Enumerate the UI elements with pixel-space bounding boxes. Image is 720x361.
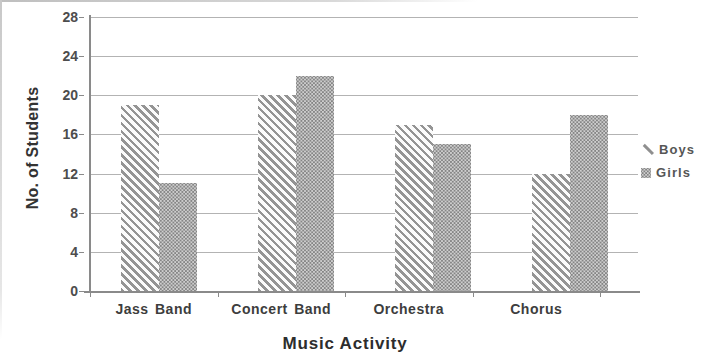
bar-boys-orchestra xyxy=(395,125,433,291)
y-tick-label-12: 12 xyxy=(38,166,78,182)
bar-girls-concert-band xyxy=(296,76,334,291)
bar-chart: No. of Students 0481216202428 Jass BandC… xyxy=(0,0,720,361)
legend: Boys Girls xyxy=(641,142,695,180)
bar-girls-orchestra xyxy=(433,144,471,291)
category-label-concert-band: Concert Band xyxy=(218,301,346,317)
bar-boys-chorus xyxy=(532,174,570,291)
bar-group-orchestra xyxy=(364,17,501,291)
y-axis-ticks: 0481216202428 xyxy=(38,0,84,300)
bar-girls-jass-band xyxy=(159,183,197,291)
x-tick-mark-0 xyxy=(90,292,91,297)
y-tick-label-20: 20 xyxy=(38,87,78,103)
bar-boys-jass-band xyxy=(121,105,159,291)
y-tick-mark-16 xyxy=(79,134,84,135)
bar-girls-chorus xyxy=(570,115,608,291)
x-category-labels: Jass BandConcert BandOrchestraChorus xyxy=(90,301,600,317)
y-tick-label-16: 16 xyxy=(38,126,78,142)
bar-pair-jass-band xyxy=(121,105,197,291)
scan-edge-left xyxy=(0,0,2,340)
bar-pair-concert-band xyxy=(258,76,334,291)
x-tick-mark-1 xyxy=(218,292,219,297)
x-tick-mark-3 xyxy=(473,292,474,297)
x-tick-mark-2 xyxy=(345,292,346,297)
bar-boys-concert-band xyxy=(258,95,296,291)
girls-dot-swatch-icon xyxy=(641,168,651,178)
y-tick-label-4: 4 xyxy=(38,244,78,260)
y-tick-mark-12 xyxy=(79,174,84,175)
y-tick-label-28: 28 xyxy=(38,9,78,25)
x-axis-tick-marks xyxy=(90,292,600,298)
bar-pair-chorus xyxy=(532,115,608,291)
y-tick-mark-24 xyxy=(79,56,84,57)
y-tick-label-24: 24 xyxy=(38,48,78,64)
y-tick-mark-28 xyxy=(79,17,84,18)
boys-stripe-swatch-icon xyxy=(641,143,654,156)
legend-item-girls: Girls xyxy=(641,165,695,180)
legend-boys-label: Boys xyxy=(659,142,695,157)
x-axis-title: Music Activity xyxy=(90,334,600,354)
bar-groups xyxy=(90,17,638,291)
category-label-chorus: Chorus xyxy=(473,301,601,317)
legend-girls-label: Girls xyxy=(656,165,691,180)
bar-pair-orchestra xyxy=(395,125,471,291)
y-tick-mark-20 xyxy=(79,95,84,96)
y-tick-mark-8 xyxy=(79,213,84,214)
category-label-orchestra: Orchestra xyxy=(345,301,473,317)
category-label-jass-band: Jass Band xyxy=(90,301,218,317)
bar-group-concert-band xyxy=(227,17,364,291)
legend-item-boys: Boys xyxy=(641,142,695,157)
bar-group-chorus xyxy=(501,17,638,291)
y-tick-label-8: 8 xyxy=(38,205,78,221)
y-tick-mark-4 xyxy=(79,252,84,253)
x-tick-mark-4 xyxy=(600,292,601,297)
bar-group-jass-band xyxy=(90,17,227,291)
y-tick-label-0: 0 xyxy=(38,283,78,299)
